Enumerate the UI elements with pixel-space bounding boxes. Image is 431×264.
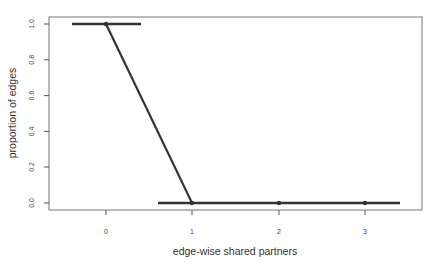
svg-text:1: 1 bbox=[190, 228, 194, 235]
svg-text:0.0: 0.0 bbox=[28, 198, 35, 208]
y-tick-labels: 0.0 0.2 0.4 0.6 0.8 1.0 bbox=[28, 19, 35, 208]
series-points bbox=[104, 22, 367, 205]
plot-frame bbox=[49, 17, 422, 210]
svg-text:0.6: 0.6 bbox=[28, 91, 35, 101]
svg-text:0: 0 bbox=[104, 228, 108, 235]
range-bars bbox=[72, 24, 400, 203]
svg-text:0.8: 0.8 bbox=[28, 55, 35, 65]
y-axis-label: proportion of edges bbox=[6, 68, 18, 158]
svg-text:3: 3 bbox=[363, 228, 367, 235]
x-axis-label: edge-wise shared partners bbox=[173, 245, 297, 257]
series-line bbox=[106, 24, 365, 203]
svg-text:1.0: 1.0 bbox=[28, 19, 35, 29]
svg-text:0.4: 0.4 bbox=[28, 126, 35, 136]
x-axis bbox=[106, 210, 365, 215]
x-tick-labels: 0 1 2 3 bbox=[104, 228, 367, 235]
svg-text:2: 2 bbox=[277, 228, 281, 235]
y-axis bbox=[44, 24, 49, 203]
chart: 0.0 0.2 0.4 0.6 0.8 1.0 0 1 2 3 edge-wis… bbox=[0, 0, 431, 264]
svg-text:0.2: 0.2 bbox=[28, 162, 35, 172]
